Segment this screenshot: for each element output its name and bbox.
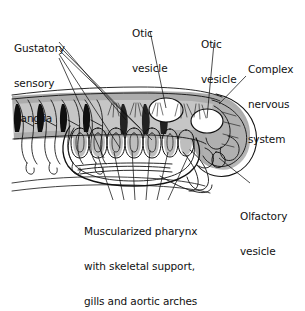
label-olfactory-line-2: vesicle [240,246,287,258]
label-gustatory-sensory-ganglia: Gustatory sensory ganglia [14,20,65,148]
label-gustatory-line-2: sensory [14,78,65,90]
label-pharynx-line-1: Muscularized pharynx [84,226,197,238]
label-olfactory-line-1: Olfactory [240,211,287,223]
label-complex-nervous-line-3: system [248,134,293,146]
label-olfactory-vesicle: Olfactory vesicle [240,188,287,281]
label-muscularized-pharynx: Muscularized pharynx with skeletal suppo… [84,203,197,311]
label-pharynx-line-3: gills and aortic arches [84,296,197,308]
label-otic-right-line-1: Otic [201,39,237,51]
label-complex-nervous-system: Complex nervous system [248,41,293,169]
label-otic-left-line-1: Otic [132,28,168,40]
ventral-aorta-lines [76,163,172,174]
label-otic-right-line-2: vesicle [201,74,237,86]
label-complex-nervous-line-2: nervous [248,99,293,111]
otic-vesicle-right-outline [191,109,223,133]
label-otic-vesicle-left: Otic vesicle [132,5,168,98]
otic-vesicle-left-outline [149,98,183,122]
label-gustatory-line-1: Gustatory [14,43,65,55]
label-complex-nervous-line-1: Complex [248,64,293,76]
label-otic-vesicle-right: Otic vesicle [201,16,237,109]
label-pharynx-line-2: with skeletal support, [84,261,197,273]
label-gustatory-line-3: ganglia [14,113,65,125]
lower-jaw-curve [160,176,212,193]
ventral-contour-line-2 [12,185,210,193]
label-otic-left-line-2: vesicle [132,63,168,75]
